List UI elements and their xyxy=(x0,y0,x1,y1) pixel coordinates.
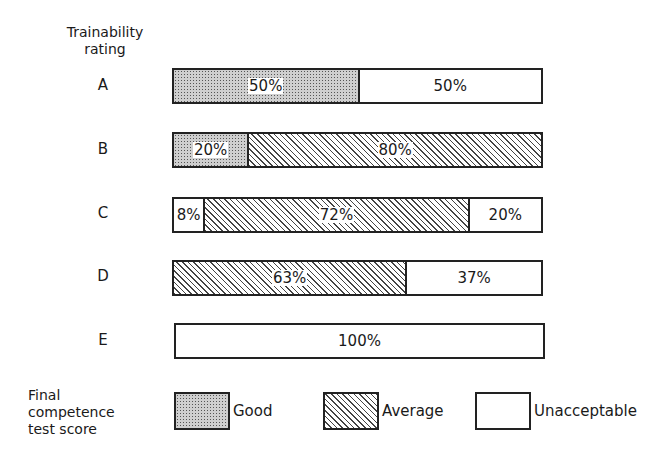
legend-title: Final competence test score xyxy=(28,387,115,438)
segment-unacceptable: 50% xyxy=(358,70,542,102)
segment-average: 63% xyxy=(174,262,405,294)
category-label-a: A xyxy=(88,76,118,94)
category-label-b: B xyxy=(88,140,118,158)
segment-label: 63% xyxy=(272,270,307,286)
legend-title-line1: Final xyxy=(28,387,115,404)
segment-unacceptable: 20% xyxy=(468,199,541,231)
legend-swatch-unacceptable xyxy=(475,392,531,430)
bar-a: 50% 50% xyxy=(172,68,543,104)
legend-label-average: Average xyxy=(382,402,444,420)
legend-swatch-good xyxy=(174,392,230,430)
segment-label: 20% xyxy=(193,142,228,158)
legend-title-line2: competence xyxy=(28,404,115,421)
segment-average: 72% xyxy=(203,199,467,231)
segment-good: 8% xyxy=(174,199,203,231)
legend-label-good: Good xyxy=(233,402,273,420)
category-label-c: C xyxy=(88,204,118,222)
bar-c: 8% 72% 20% xyxy=(172,197,543,233)
bar-b: 20% 80% xyxy=(172,132,543,168)
bar-d: 63% 37% xyxy=(172,260,543,296)
category-label-d: D xyxy=(88,267,118,285)
y-axis-title-line2: rating xyxy=(40,41,170,58)
y-axis-title: Trainability rating xyxy=(40,24,170,58)
segment-label: 72% xyxy=(319,207,354,223)
segment-unacceptable: 100% xyxy=(176,325,543,357)
y-axis-title-line1: Trainability xyxy=(40,24,170,41)
legend-title-line3: test score xyxy=(28,421,115,438)
segment-label: 50% xyxy=(433,78,468,94)
segment-good: 20% xyxy=(174,134,247,166)
segment-label: 50% xyxy=(248,78,283,94)
segment-good: 50% xyxy=(174,70,358,102)
segment-label: 20% xyxy=(488,207,523,223)
segment-label: 80% xyxy=(378,142,413,158)
segment-label: 8% xyxy=(176,207,202,223)
bar-e: 100% xyxy=(174,323,545,359)
segment-unacceptable: 37% xyxy=(405,262,541,294)
segment-label: 37% xyxy=(456,270,491,286)
segment-label: 100% xyxy=(337,333,382,349)
category-label-e: E xyxy=(88,331,118,349)
legend-swatch-average xyxy=(323,392,379,430)
segment-average: 80% xyxy=(247,134,541,166)
legend-label-unacceptable: Unacceptable xyxy=(534,402,637,420)
